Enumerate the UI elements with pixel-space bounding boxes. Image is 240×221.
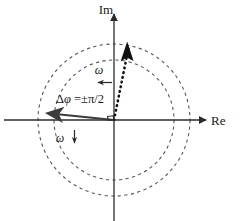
dotted-phasor-shaft	[114, 48, 129, 120]
phase-shift-delta: Δ	[56, 92, 64, 106]
phase-shift-value: =±π/2	[74, 92, 104, 106]
phasor-diagram-canvas: Im Re ω ω Δφ=±π/2	[0, 0, 240, 221]
phase-shift-phi: φ	[64, 92, 71, 106]
right-angle-marker	[108, 116, 115, 121]
omega-lower-label: ω	[56, 131, 64, 145]
omega-upper-label: ω	[95, 63, 103, 77]
imaginary-axis-label: Im	[99, 2, 113, 17]
solid-phasor	[48, 113, 114, 120]
real-axis-label: Re	[211, 113, 226, 128]
phasor-diagram-figure: Im Re ω ω Δφ=±π/2	[0, 0, 240, 221]
phase-shift-label: Δφ=±π/2	[56, 92, 104, 106]
